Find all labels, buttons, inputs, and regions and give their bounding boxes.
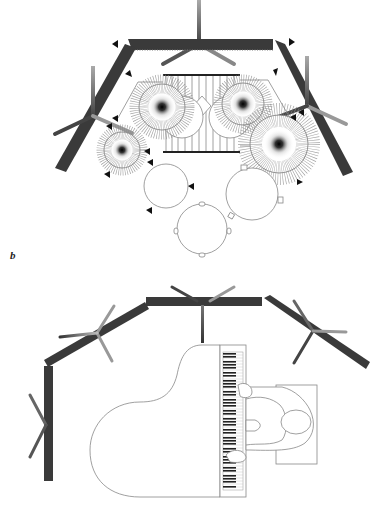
piano-diagram — [0, 265, 381, 508]
cymbal-left — [139, 84, 185, 130]
mic-stand-top — [163, 0, 234, 64]
pianist-head — [281, 410, 311, 434]
pianist-left-hand — [238, 383, 252, 397]
piano-keys — [223, 352, 243, 490]
panel-c-grand-piano: c — [0, 265, 381, 508]
mic-stand-top — [172, 287, 234, 343]
snare-drum — [144, 164, 188, 208]
grand-piano — [90, 345, 246, 497]
floor-tom — [226, 168, 278, 220]
piano-body — [90, 345, 220, 497]
mic-stand-left — [30, 395, 84, 457]
mic-stand-left — [55, 66, 132, 134]
pianist-right-hand — [226, 450, 246, 462]
panel-label-b: b — [10, 249, 16, 261]
cymbal-ride — [250, 115, 308, 173]
bass-drum — [177, 204, 227, 254]
panel-b-drum-kit: b — [0, 0, 381, 265]
pianist-elbow — [246, 420, 260, 431]
drum-kit-diagram — [0, 0, 381, 265]
floor-drums — [144, 164, 283, 257]
cymbal-hihat — [104, 132, 140, 168]
cymbal-right — [222, 83, 264, 125]
mic-stand-right — [294, 301, 346, 363]
